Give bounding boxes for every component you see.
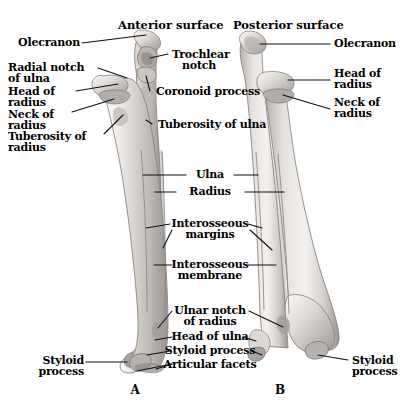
label-neck-of-radius-right-line2: radius — [334, 108, 372, 120]
label-ulnar-notch-of-radius-line2: of radius — [160, 316, 260, 328]
label-olecranon-right: Olecranon — [334, 38, 396, 50]
label-radius: Radius — [170, 186, 250, 198]
label-interosseous-margins-line2: margins — [160, 229, 260, 241]
label-head-of-radius-line2: radius — [8, 97, 46, 109]
label-styloid-process-right-line2: process — [352, 366, 398, 378]
label-olecranon: Olecranon — [0, 37, 80, 49]
label-coronoid-process: Coronoid process — [156, 86, 260, 98]
heading-anterior-surface: Anterior surface — [118, 20, 224, 32]
styloid-process-radius-b — [305, 341, 328, 359]
label-head-of-ulna: Head of ulna — [160, 331, 260, 343]
anatomy-figure: Anterior surface Posterior surface Olecr… — [0, 0, 416, 416]
label-tuberosity-of-radius-line2: radius — [8, 142, 46, 154]
heading-posterior-surface: Posterior surface — [233, 20, 344, 32]
label-articular-facets: Articular facets — [152, 359, 268, 371]
label-trochlear-notch-line2: notch — [182, 60, 216, 72]
panel-a-bones — [92, 30, 168, 373]
label-interosseous-membrane-line2: membrane — [160, 270, 260, 282]
panel-letter-b: B — [265, 385, 295, 397]
label-styloid-process-left-line2: process — [0, 366, 84, 378]
label-tuberosity-of-ulna: Tuberosity of ulna — [158, 119, 266, 131]
label-radial-notch-of-ulna-line2: of ulna — [8, 73, 50, 85]
label-head-of-radius-right-line2: radius — [334, 79, 372, 91]
panel-letter-a: A — [120, 385, 150, 397]
label-ulna: Ulna — [170, 169, 250, 181]
label-styloid-process-center: Styloid process — [152, 345, 268, 357]
